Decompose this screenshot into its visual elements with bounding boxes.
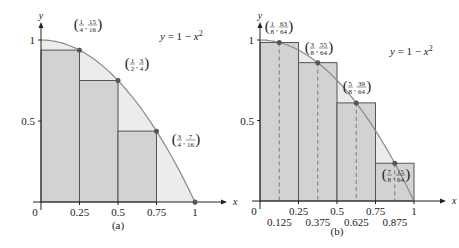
x-tick-label-mid: 0.625 <box>344 216 369 228</box>
point-label: (12,34) <box>125 55 149 73</box>
fraction-denominator: 2 <box>131 65 135 73</box>
y-tick-label: 0.5 <box>21 115 35 127</box>
y-axis-arrow-icon <box>39 22 44 28</box>
x-axis-arrow-icon <box>440 199 446 204</box>
fraction-denominator: 8 <box>349 88 353 96</box>
point-label: (38,5564) <box>305 39 334 57</box>
x-tick-label-mid: 0.125 <box>267 216 292 228</box>
point-label: (14,1516) <box>74 16 103 34</box>
comma: , <box>183 137 185 146</box>
fraction-denominator: 16 <box>89 26 97 34</box>
paren-open: ( <box>74 16 79 33</box>
x-axis-label: x <box>451 195 457 206</box>
fraction-numerator: 7 <box>189 133 193 141</box>
comma: , <box>393 172 395 181</box>
y-tick-label: 1 <box>30 34 36 46</box>
paren-close: ) <box>328 39 333 56</box>
panel-label: (a) <box>112 219 125 232</box>
comma: , <box>354 84 356 93</box>
paren-close: ) <box>97 16 102 33</box>
x-tick-label: 0 <box>251 205 257 217</box>
point-label: (34,716) <box>172 131 201 149</box>
sample-point <box>315 60 320 65</box>
fraction-numerator: 3 <box>178 133 182 141</box>
x-tick-label: 1 <box>411 205 417 217</box>
sample-point <box>354 100 359 105</box>
fraction-numerator: 63 <box>280 20 288 28</box>
x-tick-label: 0.25 <box>70 206 90 218</box>
fraction-numerator: 1 <box>271 20 275 28</box>
fraction-numerator: 15 <box>397 168 405 176</box>
comma: , <box>316 45 318 54</box>
comma: , <box>85 22 87 31</box>
paren-open: ( <box>265 18 270 35</box>
sample-point <box>77 48 82 53</box>
x-tick-label: 0.5 <box>330 205 344 217</box>
fraction-numerator: 1 <box>131 57 135 65</box>
paren-close: ) <box>366 78 371 95</box>
panel-label: (b) <box>331 225 344 238</box>
paren-open: ( <box>172 131 177 148</box>
x-axis-arrow-icon <box>221 200 227 205</box>
fraction-denominator: 64 <box>320 49 328 57</box>
x-tick-label-mid: 0.875 <box>382 216 407 228</box>
paren-open: ( <box>305 39 310 56</box>
fraction-numerator: 7 <box>388 168 392 176</box>
fraction-denominator: 16 <box>187 141 195 149</box>
y-tick-label: 1 <box>249 34 255 46</box>
paren-open: ( <box>343 78 348 95</box>
paren-open: ( <box>125 55 130 72</box>
y-axis-arrow-icon <box>258 22 263 28</box>
fraction-denominator: 4 <box>178 141 182 149</box>
x-tick-label-mid: 0.375 <box>305 216 330 228</box>
paren-close: ) <box>405 166 410 183</box>
function-label: y = 1 − x2 <box>389 44 433 57</box>
comma: , <box>276 24 278 33</box>
fraction-numerator: 5 <box>349 80 353 88</box>
fraction-denominator: 64 <box>280 28 288 36</box>
fraction-numerator: 3 <box>311 41 315 49</box>
sample-point <box>392 161 397 166</box>
point-label: (58,3964) <box>343 78 372 96</box>
riemann-rectangle <box>118 131 157 202</box>
fraction-denominator: 8 <box>271 28 275 36</box>
paren-close: ) <box>144 55 149 72</box>
fraction-numerator: 1 <box>80 18 84 26</box>
y-axis-label: y <box>38 10 44 21</box>
comma: , <box>136 61 138 70</box>
sample-point <box>116 78 121 83</box>
fraction-numerator: 15 <box>89 18 97 26</box>
fraction-denominator: 64 <box>358 88 366 96</box>
sample-point <box>154 129 159 134</box>
riemann-rectangle <box>41 50 80 202</box>
sample-point <box>277 40 282 45</box>
riemann-rectangle <box>299 63 338 201</box>
riemann-sum-figure: xy10.500.250.50.751(14,1516)(12,34)(34,7… <box>0 0 459 248</box>
x-tick-label: 0.5 <box>111 206 125 218</box>
fraction-denominator: 64 <box>397 176 405 184</box>
x-tick-label: 0 <box>32 206 38 218</box>
fraction-denominator: 4 <box>80 26 84 34</box>
fraction-numerator: 55 <box>320 41 328 49</box>
paren-close: ) <box>195 131 200 148</box>
x-axis-label: x <box>232 196 238 207</box>
fraction-denominator: 8 <box>311 49 315 57</box>
paren-open: ( <box>382 166 387 183</box>
x-tick-label: 1 <box>192 206 198 218</box>
riemann-rectangle <box>80 81 119 203</box>
fraction-denominator: 8 <box>388 176 392 184</box>
chart-panel-a: xy10.500.250.50.751(14,1516)(12,34)(34,7… <box>21 10 238 232</box>
x-tick-label: 0.75 <box>147 206 167 218</box>
y-tick-label: 0.5 <box>240 115 254 127</box>
y-axis-label: y <box>257 10 263 21</box>
chart-panel-b: xy10.500.250.50.7510.1250.3750.6250.875(… <box>240 10 457 238</box>
point-label: (18,6364) <box>265 18 294 36</box>
fraction-numerator: 39 <box>358 80 366 88</box>
sample-point <box>193 200 198 205</box>
paren-close: ) <box>288 18 293 35</box>
function-label: y = 1 − x2 <box>159 29 203 42</box>
